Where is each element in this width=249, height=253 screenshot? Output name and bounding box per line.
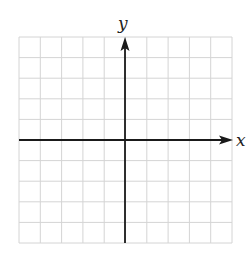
y-axis-label: y xyxy=(117,13,128,33)
coordinate-plane: x y xyxy=(0,0,249,253)
x-axis-label: x xyxy=(236,130,246,150)
